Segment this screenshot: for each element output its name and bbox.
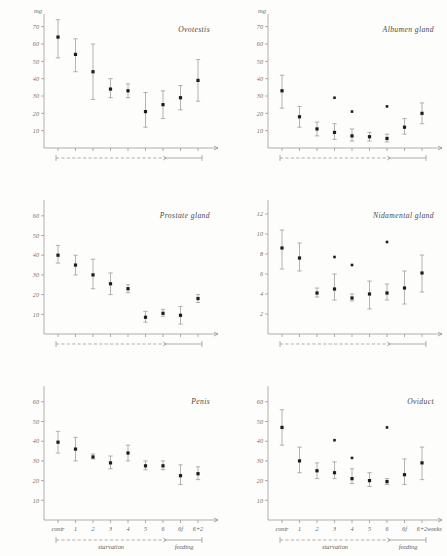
- data-point: [385, 134, 389, 142]
- y-tick-label: 10: [33, 311, 40, 318]
- mean-marker: [385, 480, 388, 483]
- y-tick-label: 12: [257, 210, 263, 217]
- y-tick-label: 2: [260, 310, 263, 317]
- x-tick-label: 1: [74, 525, 77, 532]
- x-tick-label: contr: [51, 525, 65, 532]
- week-axis-label: weeks: [427, 525, 442, 532]
- y-tick-label: 30: [256, 457, 264, 464]
- mean-marker: [109, 461, 112, 464]
- mean-marker: [109, 87, 112, 90]
- data-point: [367, 281, 371, 309]
- x-tick-label: 5: [368, 525, 371, 532]
- x-tick-label: 2: [91, 525, 94, 532]
- data-point: [315, 463, 319, 479]
- data-point: [420, 447, 424, 480]
- data-point: [196, 60, 200, 102]
- y-tick-label: 20: [33, 291, 40, 298]
- y-tick-label: 4: [260, 290, 263, 297]
- mean-marker: [385, 291, 388, 294]
- mean-marker: [315, 469, 318, 472]
- data-point: [91, 259, 95, 289]
- data-point: [161, 91, 165, 119]
- panel-ovotestis: 10203040506070mgOvotestis: [0, 0, 223, 185]
- mean-marker: [280, 426, 283, 429]
- mean-marker: [161, 103, 164, 106]
- data-point: [126, 285, 130, 293]
- y-tick-label: 30: [32, 457, 40, 464]
- x-tick-label: contr: [275, 525, 289, 532]
- y-tick-label: 50: [33, 418, 40, 425]
- panel-penis: 102030405060Peniscontr1234566f6+2starvat…: [0, 372, 223, 556]
- mean-marker: [333, 471, 336, 474]
- outlier-point: [386, 105, 389, 108]
- data-point: [161, 461, 165, 470]
- mean-marker: [403, 126, 406, 129]
- mean-marker: [144, 110, 147, 113]
- data-point: [315, 122, 319, 136]
- mean-marker: [280, 246, 283, 249]
- data-point: [73, 437, 77, 461]
- outlier-point: [351, 264, 354, 267]
- mean-marker: [179, 96, 182, 99]
- panel-title: Albumen gland: [382, 25, 434, 34]
- data-point: [126, 445, 130, 461]
- y-tick-label: 60: [33, 40, 40, 47]
- y-tick-label: 50: [33, 232, 40, 239]
- outlier-point: [386, 426, 389, 429]
- y-tick-label: 40: [257, 437, 264, 444]
- mean-marker: [280, 89, 283, 92]
- data-point: [196, 467, 200, 480]
- y-tick-label: 10: [257, 497, 264, 504]
- x-tick-label: 6: [385, 525, 389, 532]
- outlier-point: [333, 96, 336, 99]
- mean-marker: [126, 287, 129, 290]
- x-tick-label: 6+2: [417, 525, 427, 532]
- data-point: [385, 284, 389, 300]
- mean-marker: [350, 477, 353, 480]
- data-point: [73, 255, 77, 275]
- y-tick-label: 20: [257, 110, 264, 117]
- data-point: [161, 309, 165, 316]
- data-point: [126, 84, 130, 98]
- y-tick-label: 60: [33, 398, 40, 405]
- data-point: [178, 86, 182, 110]
- mean-marker: [333, 287, 336, 290]
- x-tick-label: 6+2: [193, 525, 203, 532]
- outlier-point: [333, 439, 336, 442]
- mean-marker: [298, 115, 301, 118]
- y-tick-label: 60: [257, 398, 264, 405]
- y-tick-label: 60: [33, 212, 40, 219]
- data-point: [402, 119, 406, 135]
- mean-marker: [350, 134, 353, 137]
- data-point: [297, 447, 301, 473]
- panel-oviduct: 102030405060Oviductcontr1234566f6+2starv…: [224, 372, 447, 556]
- mean-marker: [298, 256, 301, 259]
- y-tick-label: 60: [257, 40, 264, 47]
- data-point: [420, 255, 424, 292]
- outlier-point: [351, 457, 354, 460]
- data-point: [280, 75, 284, 108]
- unit-label: mg: [34, 7, 43, 14]
- data-point: [143, 93, 147, 128]
- data-point: [108, 273, 112, 295]
- x-tick-label: 6f: [402, 525, 408, 532]
- mean-marker: [403, 286, 406, 289]
- y-tick-label: 20: [33, 110, 40, 117]
- x-tick-label: 1: [298, 525, 301, 532]
- mean-marker: [385, 137, 388, 140]
- data-point: [91, 44, 95, 99]
- phase-label-feeding: feeding: [399, 543, 419, 550]
- mean-marker: [333, 131, 336, 134]
- data-point: [91, 454, 95, 459]
- mean-marker: [179, 474, 182, 477]
- outlier-point: [386, 241, 389, 244]
- unit-label: mg: [258, 7, 267, 14]
- mean-marker: [91, 273, 94, 276]
- x-tick-label: 6f: [178, 525, 184, 532]
- data-point: [332, 274, 336, 300]
- mean-marker: [196, 472, 199, 475]
- mean-marker: [368, 135, 371, 138]
- y-tick-label: 40: [257, 75, 264, 82]
- y-tick-label: 6: [260, 270, 264, 277]
- outlier-point: [333, 256, 336, 259]
